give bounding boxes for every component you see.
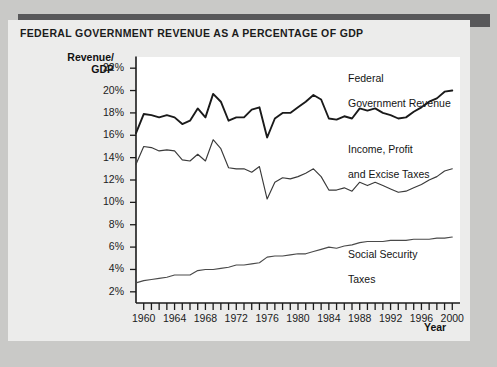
series-label-federal-government-revenue: Federal Government Revenue <box>348 59 451 109</box>
series-label-social-line2: Taxes <box>348 273 375 285</box>
y-axis-tick-label: 14% <box>88 151 124 163</box>
y-axis-tick-label: 4% <box>88 262 124 274</box>
y-axis-tick-label: 6% <box>88 240 124 252</box>
series-label-federal-line1: Federal <box>348 72 384 84</box>
x-axis-tick-label: 2000 <box>432 312 472 324</box>
y-axis-tick-label: 16% <box>88 128 124 140</box>
series-label-income-profit-excise-taxes: Income, Profit and Excise Taxes <box>348 130 430 180</box>
y-axis-tick-label: 2% <box>88 285 124 297</box>
y-axis-tick-label: 20% <box>88 84 124 96</box>
y-axis-tick-label: 8% <box>88 218 124 230</box>
series-label-social-line1: Social Security <box>348 248 417 260</box>
chart-figure: FEDERAL GOVERNMENT REVENUE AS A PERCENTA… <box>0 0 497 367</box>
series-label-income-line1: Income, Profit <box>348 143 413 155</box>
y-axis-tick-label: 18% <box>88 106 124 118</box>
series-label-income-line2: and Excise Taxes <box>348 168 430 180</box>
y-axis-tick-label: 10% <box>88 195 124 207</box>
y-axis-tick-label: 12% <box>88 173 124 185</box>
y-axis-tick-label: 22% <box>88 61 124 73</box>
series-label-social-security-taxes: Social Security Taxes <box>348 235 417 285</box>
series-label-federal-line2: Government Revenue <box>348 97 451 109</box>
